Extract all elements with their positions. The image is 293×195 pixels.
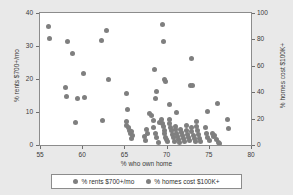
- legend-marker-icon: [146, 179, 151, 184]
- y-axis-left-tick: [36, 79, 39, 80]
- x-axis-tick: [82, 146, 83, 149]
- x-axis-tick: [124, 146, 125, 149]
- y-axis-left-tick-label: 0: [17, 141, 33, 148]
- x-axis-tick-label: 70: [157, 151, 177, 158]
- data-point: [184, 123, 189, 128]
- legend-marker-icon: [73, 179, 78, 184]
- x-axis-tick: [167, 146, 168, 149]
- y-axis-right-tick: [252, 13, 255, 14]
- data-point: [99, 38, 104, 43]
- data-point: [100, 118, 105, 123]
- y-axis-right-tick-label: 20: [257, 115, 273, 122]
- legend-item-homes: % homes cost $100K+: [146, 178, 219, 185]
- x-axis-tick: [251, 146, 252, 149]
- data-point: [163, 79, 168, 84]
- data-point: [65, 39, 70, 44]
- x-axis-tick: [40, 146, 41, 149]
- data-point: [104, 28, 109, 33]
- x-axis-tick-label: 80: [241, 151, 261, 158]
- data-point: [165, 139, 170, 144]
- legend-label: % rents $700+/mo: [81, 178, 134, 185]
- x-axis-title: % who own home: [0, 160, 293, 167]
- data-point: [189, 56, 194, 61]
- legend-label: % homes cost $100K+: [154, 178, 219, 185]
- data-point: [106, 77, 111, 82]
- data-point: [70, 51, 75, 56]
- data-point: [154, 89, 159, 94]
- data-point: [63, 85, 68, 90]
- y-axis-right-tick-label: 100: [257, 9, 273, 16]
- y-axis-right-tick-label: 0: [257, 141, 273, 148]
- data-point: [205, 109, 210, 114]
- y-axis-right-tick: [252, 119, 255, 120]
- data-point: [226, 126, 231, 131]
- data-point: [160, 22, 165, 27]
- y-axis-right-tick: [252, 66, 255, 67]
- y-axis-left-tick: [36, 13, 39, 14]
- x-axis-tick-label: 55: [30, 151, 50, 158]
- y-axis-right-tick: [252, 92, 255, 93]
- data-point: [167, 102, 172, 107]
- plot-area: [39, 12, 252, 146]
- data-point: [198, 139, 203, 144]
- y-axis-right-tick-label: 80: [257, 35, 273, 42]
- data-point: [190, 83, 195, 88]
- data-point: [125, 107, 130, 112]
- x-axis-tick: [209, 146, 210, 149]
- x-axis-tick-label: 65: [114, 151, 134, 158]
- data-point: [81, 71, 86, 76]
- data-point: [151, 125, 156, 130]
- y-axis-left-title: % rents $700+/mo: [13, 16, 20, 136]
- data-point: [64, 94, 69, 99]
- y-axis-right-title: % homes cost $100K+: [279, 16, 286, 136]
- chart-legend: % rents $700+/mo % homes cost $100K+: [51, 174, 242, 189]
- x-axis-tick-label: 75: [199, 151, 219, 158]
- legend-item-rents: % rents $700+/mo: [73, 178, 134, 185]
- data-point: [203, 125, 208, 130]
- data-point: [156, 140, 161, 145]
- data-point: [152, 67, 157, 72]
- data-point: [161, 39, 166, 44]
- y-axis-right-tick: [252, 39, 255, 40]
- y-axis-right-tick-label: 40: [257, 88, 273, 95]
- y-axis-right-tick-label: 60: [257, 62, 273, 69]
- data-point: [73, 120, 78, 125]
- y-axis-left-tick: [36, 46, 39, 47]
- data-point: [151, 118, 156, 123]
- x-axis-tick-label: 60: [72, 151, 92, 158]
- y-axis-left-tick: [36, 112, 39, 113]
- scatter-chart: 556065707580010203040020406080100 % who …: [0, 0, 293, 195]
- data-point: [129, 136, 134, 141]
- data-point: [225, 117, 230, 122]
- data-point: [46, 24, 51, 29]
- data-point: [215, 101, 220, 106]
- y-axis-left-tick: [36, 145, 39, 146]
- data-point: [75, 96, 80, 101]
- data-point: [82, 95, 87, 100]
- data-point: [124, 91, 129, 96]
- data-point: [217, 141, 222, 146]
- data-point: [153, 96, 158, 101]
- y-axis-right-tick: [252, 145, 255, 146]
- data-point: [174, 110, 179, 115]
- data-point: [47, 36, 52, 41]
